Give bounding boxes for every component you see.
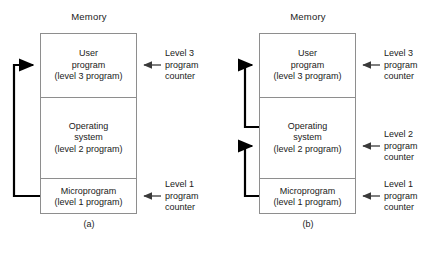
figure-canvas: Memory User program (level 3 program) Op… — [0, 0, 438, 257]
panel-b: Memory User program (level 3 program) Op… — [219, 0, 438, 257]
panel-a: Memory User program (level 3 program) Op… — [0, 0, 219, 257]
panel-caption-a: (a) — [0, 219, 178, 229]
control-loop-microprogram-to-operating-system-b — [245, 146, 259, 196]
control-loop-microprogram-to-user-program-a — [14, 65, 40, 196]
panel-caption-b: (b) — [219, 219, 397, 229]
control-loop-operating-system-to-user-program-b — [245, 65, 259, 127]
